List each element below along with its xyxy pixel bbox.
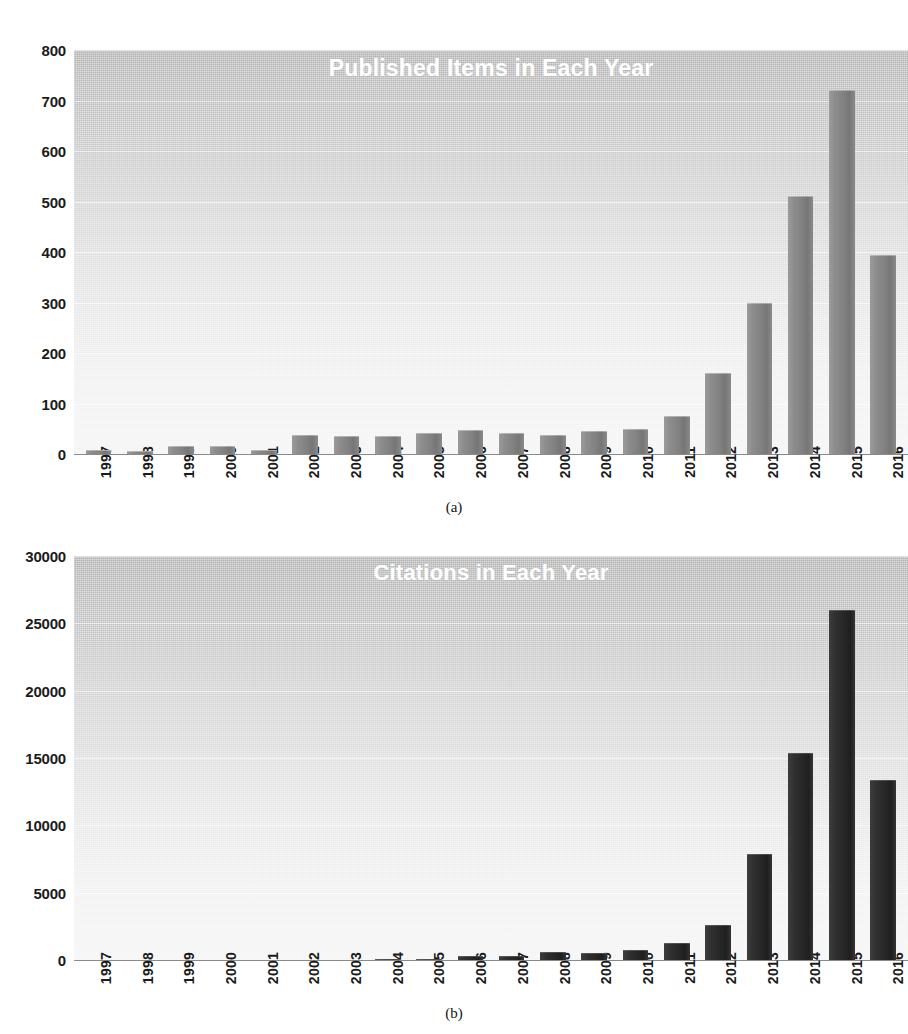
y-axis-tick-label: 200 [42, 346, 66, 361]
bar-2003 [334, 436, 360, 454]
bar-2006 [458, 430, 484, 454]
bar-slot [615, 556, 656, 960]
y-axis-tick-label: 10000 [25, 818, 66, 833]
bar-slot [119, 50, 160, 454]
subcaption-a: (a) [0, 499, 908, 516]
y-axis-tick-label: 20000 [25, 684, 66, 699]
bar-slot [532, 556, 573, 960]
bar-2015 [829, 90, 855, 454]
chart-panel-published-items: 0100200300400500600700800 Published Item… [0, 14, 908, 514]
bar-slot [780, 50, 821, 454]
y-axis-tick-label: 0 [58, 447, 66, 462]
bar-slot [202, 556, 243, 960]
bar-2005 [416, 959, 442, 960]
bar-2014 [788, 753, 814, 960]
bar-2005 [416, 433, 442, 454]
bar-slot [821, 556, 862, 960]
bar-slot [326, 556, 367, 960]
bar-slot [450, 50, 491, 454]
bar-2004 [375, 959, 401, 960]
bar-slot [161, 50, 202, 454]
bar-2010 [623, 950, 649, 960]
y-axis-tick-label: 600 [42, 144, 66, 159]
bar-slot [821, 50, 862, 454]
y-axis-tick-label: 25000 [25, 616, 66, 631]
bar-slot [615, 50, 656, 454]
bar-series-a [74, 50, 908, 454]
bar-2009 [581, 431, 607, 454]
bar-2006 [458, 956, 484, 960]
bar-2011 [664, 416, 690, 454]
bar-2008 [540, 952, 566, 960]
bar-slot [739, 50, 780, 454]
plot-area-b: Citations in Each Year [74, 556, 908, 960]
chart-panel-citations: 050001000015000200002500030000 Citations… [0, 528, 908, 1034]
bar-2011 [664, 943, 690, 961]
x-axis-line-b [74, 960, 908, 961]
bar-2009 [581, 953, 607, 960]
bar-slot [574, 50, 615, 454]
bar-slot [863, 556, 904, 960]
bar-2008 [540, 435, 566, 454]
bar-slot [284, 50, 325, 454]
y-axis-tick-label: 800 [42, 43, 66, 58]
y-axis-tick-label: 400 [42, 245, 66, 260]
bar-slot [656, 50, 697, 454]
bar-2012 [705, 373, 731, 454]
bar-2002 [292, 435, 318, 454]
bar-2016 [870, 255, 896, 454]
bar-slot [367, 556, 408, 960]
bar-2012 [705, 925, 731, 960]
bar-slot [780, 556, 821, 960]
bar-slot [697, 50, 738, 454]
bar-slot [243, 556, 284, 960]
y-axis-tick-label: 5000 [33, 886, 66, 901]
bar-slot [161, 556, 202, 960]
bar-slot [863, 50, 904, 454]
bar-2001 [251, 450, 277, 454]
y-axis-tick-label: 30000 [25, 549, 66, 564]
bar-2013 [747, 854, 773, 960]
y-axis-tick-label: 0 [58, 953, 66, 968]
bar-2007 [499, 956, 525, 960]
bar-2016 [870, 780, 896, 960]
bar-1997 [86, 450, 112, 454]
bar-2004 [375, 436, 401, 454]
chart-title-a: Published Items in Each Year [74, 50, 908, 86]
bar-slot [697, 556, 738, 960]
bar-slot [326, 50, 367, 454]
bar-2010 [623, 429, 649, 454]
bar-1998 [127, 451, 153, 454]
bar-2015 [829, 610, 855, 960]
bar-slot [78, 50, 119, 454]
y-axis-tick-label: 500 [42, 195, 66, 210]
y-axis-tick-label: 300 [42, 296, 66, 311]
bar-slot [491, 50, 532, 454]
bar-2013 [747, 303, 773, 455]
bar-slot [491, 556, 532, 960]
bar-2014 [788, 196, 814, 454]
bar-slot [408, 556, 449, 960]
bar-slot [78, 556, 119, 960]
bar-slot [408, 50, 449, 454]
bar-slot [656, 556, 697, 960]
y-axis-tick-label: 100 [42, 397, 66, 412]
bar-slot [243, 50, 284, 454]
bar-slot [202, 50, 243, 454]
bar-2000 [210, 446, 236, 454]
bar-series-b [74, 556, 908, 960]
bar-slot [284, 556, 325, 960]
bar-slot [450, 556, 491, 960]
bar-slot [119, 556, 160, 960]
plot-area-a: Published Items in Each Year [74, 50, 908, 454]
bar-1999 [168, 446, 194, 454]
y-axis-tick-label: 700 [42, 94, 66, 109]
subcaption-b: (b) [0, 1005, 908, 1022]
x-axis-line-a [74, 454, 908, 455]
figure-two-bar-charts: 0100200300400500600700800 Published Item… [0, 0, 908, 1034]
bar-slot [574, 556, 615, 960]
bar-slot [532, 50, 573, 454]
chart-title-b: Citations in Each Year [74, 556, 908, 590]
bar-slot [367, 50, 408, 454]
bar-slot [739, 556, 780, 960]
